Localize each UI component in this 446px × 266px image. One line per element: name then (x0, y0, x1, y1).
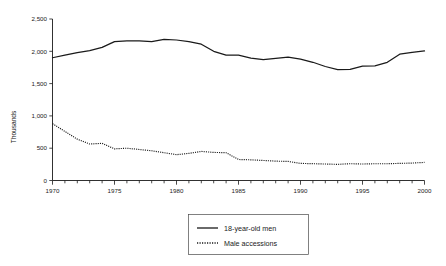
y-tick-label: 2,000 (32, 48, 48, 55)
series-line-male-accessions (53, 124, 425, 165)
x-tick-label: 1985 (232, 187, 246, 194)
chart-figure: 05001,0001,5002,0002,500 197019751980198… (0, 0, 446, 266)
x-tick-label: 1975 (108, 187, 122, 194)
series-line-18-year-old-men (53, 39, 425, 69)
chart-legend[interactable]: 18-year-old men Male accessions (189, 215, 309, 255)
y-tick-label: 2,500 (32, 15, 48, 22)
y-axis-title: Thousands (10, 110, 17, 143)
legend-label-male-accessions: Male accessions (224, 239, 278, 248)
y-axis: 05001,0001,5002,0002,500 (32, 15, 53, 184)
x-tick-label: 1995 (356, 187, 370, 194)
x-tick-label: 1970 (46, 187, 60, 194)
y-tick-label: 1,500 (32, 80, 48, 87)
y-tick-label: 500 (37, 144, 48, 151)
x-tick-label: 1980 (170, 187, 184, 194)
legend-border (189, 215, 309, 255)
legend-label-18-year-old-men: 18-year-old men (224, 224, 276, 233)
line-chart: 05001,0001,5002,0002,500 197019751980198… (0, 0, 446, 266)
x-axis: 1970197519801985199019952000 (46, 181, 432, 195)
x-tick-label: 2000 (418, 187, 432, 194)
y-tick-label: 0 (44, 177, 48, 184)
x-tick-label: 1990 (294, 187, 308, 194)
y-tick-label: 1,000 (32, 112, 48, 119)
